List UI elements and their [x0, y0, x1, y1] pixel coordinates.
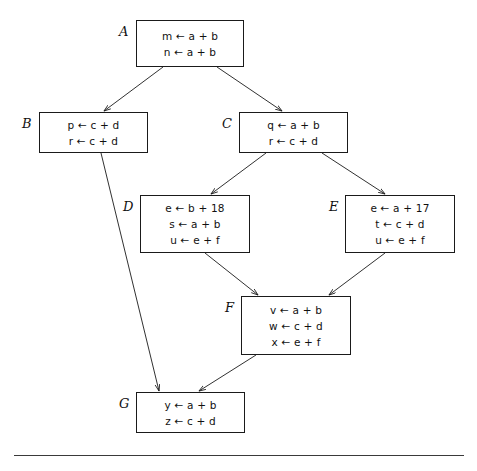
bottom-horizontal-rule	[14, 455, 464, 456]
node-f[interactable]: v ← a + bw ← c + dx ← e + f	[241, 296, 351, 355]
figure-canvas: m ← a + bn ← a + bAp ← c + dr ← c + dBq …	[0, 0, 477, 471]
node-d[interactable]: e ← b + 18s ← a + bu ← e + f	[140, 195, 250, 253]
edge-c-to-d	[211, 153, 266, 194]
statement: q ← a + b	[267, 117, 320, 133]
edge-e-to-f	[329, 253, 385, 295]
edge-f-to-g	[199, 355, 256, 391]
statement: r ← c + d	[269, 133, 319, 149]
statement: w ← c + d	[269, 318, 323, 334]
statement: e ← b + 18	[165, 200, 224, 216]
node-label-e: E	[329, 199, 339, 214]
statement: e ← a + 17	[370, 200, 429, 216]
statement: s ← a + b	[169, 216, 220, 232]
edge-c-to-e	[322, 153, 385, 194]
edge-a-to-b	[104, 67, 163, 111]
statement: x ← e + f	[271, 334, 320, 350]
node-b[interactable]: p ← c + dr ← c + d	[39, 112, 148, 153]
node-label-a: A	[119, 24, 128, 39]
node-label-c: C	[222, 116, 232, 131]
statement: v ← a + b	[270, 302, 322, 318]
node-label-d: D	[123, 199, 133, 214]
node-e[interactable]: e ← a + 17t ← c + du ← e + f	[345, 195, 455, 253]
node-label-b: B	[22, 116, 32, 131]
statement: r ← c + d	[69, 133, 119, 149]
node-label-f: F	[225, 300, 234, 315]
edge-a-to-c	[217, 67, 282, 111]
statement: y ← a + b	[164, 397, 216, 413]
statement: p ← c + d	[68, 117, 120, 133]
edge-b-to-g	[101, 153, 159, 391]
node-a[interactable]: m ← a + bn ← a + b	[136, 20, 244, 67]
edge-d-to-f	[205, 253, 258, 295]
statement: m ← a + b	[162, 28, 218, 44]
statement: u ← e + f	[375, 232, 425, 248]
statement: n ← a + b	[164, 44, 217, 60]
statement: u ← e + f	[170, 232, 220, 248]
node-c[interactable]: q ← a + br ← c + d	[239, 112, 348, 153]
statement: z ← c + d	[165, 413, 216, 429]
node-g[interactable]: y ← a + bz ← c + d	[136, 392, 245, 433]
statement: t ← c + d	[375, 216, 424, 232]
node-label-g: G	[119, 396, 129, 411]
